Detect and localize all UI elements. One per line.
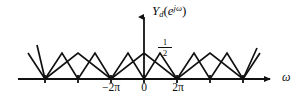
y-axis-label: Yd(ejω) [152,4,186,19]
amplitude-denominator: 2 [158,48,172,58]
y-axis-label-exponent: jω [174,3,182,13]
amplitude-label: 12 [158,38,172,59]
x-axis-label: ω [282,71,290,83]
tick-label-2pi: 2π [158,82,198,94]
amplitude-numerator: 1 [158,38,172,48]
spectrum-figure: Yd(ejω) 12 ω −2π 0 2π [0,0,302,103]
y-axis-label-close-paren: ) [182,3,186,18]
